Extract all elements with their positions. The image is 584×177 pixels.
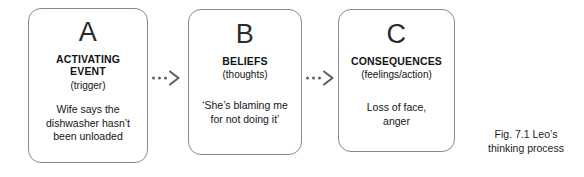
box-subtitle-b: (thoughts)	[222, 69, 267, 81]
box-subtitle-a: (trigger)	[70, 80, 105, 92]
box-subtitle-c: (feelings/action)	[361, 69, 432, 81]
box-letter-c: C	[387, 21, 407, 48]
arrow-b-to-c-icon	[304, 70, 336, 86]
box-activating-event: A ACTIVATING EVENT (trigger) Wife says t…	[28, 8, 148, 163]
box-detail-c: Loss of face, anger	[367, 101, 427, 129]
box-detail-b-line2: for not doing it’	[211, 113, 280, 125]
figure-caption: Fig. 7.1 Leo’s thinking process	[470, 127, 582, 156]
box-detail-a: Wife says the dishwasher hasn’t been unl…	[46, 103, 130, 145]
box-detail-a-line2: dishwasher hasn’t	[46, 117, 130, 129]
box-title-a-line1: ACTIVATING	[56, 53, 120, 65]
box-beliefs: B BELIEFS (thoughts) ‘She’s blaming me f…	[188, 9, 302, 155]
box-letter-a: A	[79, 19, 98, 46]
box-detail-c-line1: Loss of face,	[367, 101, 427, 113]
box-letter-b: B	[236, 21, 255, 48]
arrow-a-to-b-icon	[150, 70, 182, 86]
figure-caption-line1: Fig. 7.1 Leo’s	[470, 127, 582, 141]
abc-model-diagram: A ACTIVATING EVENT (trigger) Wife says t…	[0, 0, 584, 177]
box-title-a-line2: EVENT	[70, 65, 106, 77]
box-consequences: C CONSEQUENCES (feelings/action) Loss of…	[338, 9, 455, 152]
box-detail-a-line3: been unloaded	[53, 130, 123, 142]
figure-caption-line2: thinking process	[470, 141, 582, 155]
box-detail-a-line1: Wife says the	[56, 103, 119, 115]
box-detail-b: ‘She’s blaming me for not doing it’	[202, 99, 288, 127]
box-title-b: BELIEFS	[222, 55, 267, 67]
box-title-a: ACTIVATING EVENT	[56, 53, 120, 78]
box-title-c: CONSEQUENCES	[351, 55, 442, 67]
box-detail-b-line1: ‘She’s blaming me	[202, 99, 288, 111]
box-detail-c-line2: anger	[383, 115, 410, 127]
